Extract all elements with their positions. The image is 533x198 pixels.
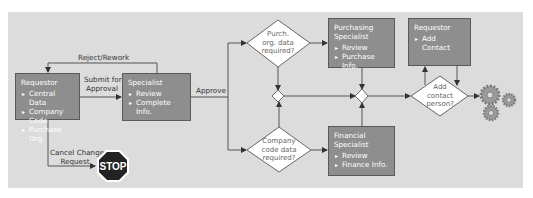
edge-label-line: Cancel Change: [50, 148, 100, 157]
decision-text-line: org. data: [252, 39, 304, 48]
svg-text:STOP: STOP: [99, 161, 126, 172]
task-title: Purchasing: [334, 23, 389, 32]
task-item: Company Code: [21, 107, 74, 125]
task-specialist: Specialist Review Complete Info.: [122, 73, 191, 121]
task-title: Financial: [334, 131, 389, 140]
task-requestor-contact: Requestor Add Contact: [408, 18, 471, 66]
task-title: Specialist: [334, 32, 389, 41]
edge-label-line: Approval: [84, 84, 120, 93]
decision-text-line: required?: [253, 154, 305, 163]
decision-text-line: Company: [253, 137, 305, 146]
task-requestor: Requestor Central Data Company Code Purc…: [15, 73, 80, 120]
decision-purch-org-text: Purch. org. data required?: [252, 30, 304, 56]
edge-label-reject-rework: Reject/Rework: [78, 53, 129, 62]
edge-label-line: Request: [50, 157, 100, 166]
task-item: Complete Info.: [128, 98, 185, 116]
task-item: Review: [334, 151, 389, 160]
task-title: Specialist: [334, 140, 389, 149]
task-item: Central Data: [21, 89, 74, 107]
task-title: Specialist: [128, 78, 185, 87]
edge-label-approve: Approve: [196, 86, 226, 95]
edge-label-cancel: Cancel Change Request: [50, 148, 100, 166]
decision-text-line: Add: [417, 83, 463, 92]
task-title: Requestor: [21, 78, 74, 87]
decision-text-line: Purch.: [252, 30, 304, 39]
task-item: Review: [334, 43, 389, 52]
decision-text-line: contact: [417, 92, 463, 101]
decision-add-contact-text: Add contact person?: [417, 83, 463, 109]
task-item: Finance Info.: [334, 160, 389, 169]
decision-company-code-text: Company code data required?: [253, 137, 305, 163]
task-item: Purchase Org.: [21, 125, 74, 143]
task-financial-specialist: Financial Specialist Review Finance Info…: [328, 126, 395, 176]
decision-text-line: code data: [253, 146, 305, 155]
edge-label-submit: Submit for Approval: [84, 75, 120, 93]
gears-icon: [478, 83, 520, 123]
stop-sign-icon: STOP: [96, 149, 130, 183]
task-item: Add Contact: [414, 34, 465, 52]
task-item: Purchase Info.: [334, 52, 389, 70]
task-item: Review: [128, 89, 185, 98]
task-title: Requestor: [414, 23, 465, 32]
task-purchasing-specialist: Purchasing Specialist Review Purchase In…: [328, 18, 395, 68]
decision-text-line: person?: [417, 100, 463, 109]
edge-label-line: Submit for: [84, 75, 120, 84]
decision-text-line: required?: [252, 47, 304, 56]
